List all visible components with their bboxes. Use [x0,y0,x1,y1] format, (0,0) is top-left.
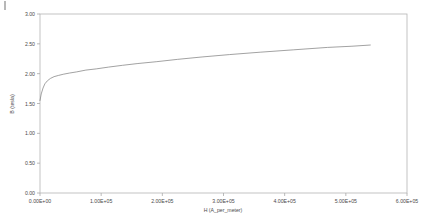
series-group [40,45,370,100]
x-tick-label: 6.00E+05 [396,198,418,204]
corner-artifact-mark [4,1,6,10]
y-tick-label: 2.50 [25,41,35,47]
x-axis-title: H (A_per_meter) [204,207,243,213]
x-tick-label: 2.00E+05 [151,198,173,204]
bh-curve-plot: 0.00E+001.00E+052.00E+053.00E+054.00E+05… [0,0,430,223]
y-tick-label: 3.00 [25,11,35,17]
y-axis-ticks: 0.000.501.001.502.002.503.00 [25,11,40,196]
y-tick-label: 2.00 [25,71,35,77]
y-tick-label: 0.50 [25,160,35,166]
series-line [40,45,370,100]
x-tick-label: 1.00E+05 [90,198,112,204]
y-tick-label: 1.00 [25,130,35,136]
x-tick-label: 4.00E+05 [273,198,295,204]
plot-frame [40,14,407,193]
y-axis-title: B (tesla) [9,94,15,114]
chart-container: 0.00E+001.00E+052.00E+053.00E+054.00E+05… [0,0,430,223]
y-tick-label: 1.50 [25,101,35,107]
x-axis-ticks: 0.00E+001.00E+052.00E+053.00E+054.00E+05… [29,193,418,204]
x-tick-label: 0.00E+00 [29,198,51,204]
x-tick-label: 3.00E+05 [212,198,234,204]
x-tick-label: 5.00E+05 [335,198,357,204]
y-tick-label: 0.00 [25,190,35,196]
